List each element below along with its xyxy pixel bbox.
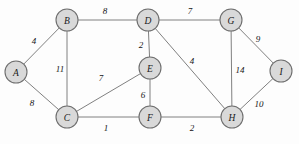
node-label: H <box>228 113 237 123</box>
graph-canvas: 48118712746214910 ABCDEFGHI <box>0 0 299 144</box>
edge-weight-label: 11 <box>56 64 64 74</box>
graph-node-c[interactable]: C <box>56 106 78 128</box>
node-label: G <box>228 16 235 26</box>
edge-weight-label: 8 <box>103 6 108 16</box>
edge-weight-label: 2 <box>139 40 144 50</box>
node-label: E <box>146 64 153 74</box>
node-label: F <box>146 113 153 123</box>
graph-diagram: 48118712746214910 ABCDEFGHI <box>0 0 299 144</box>
graph-node-e[interactable]: E <box>139 57 161 79</box>
graph-node-a[interactable]: A <box>5 61 27 83</box>
graph-node-i[interactable]: I <box>270 60 292 82</box>
node-label: C <box>64 113 71 123</box>
edge-weight-label: 7 <box>99 73 104 83</box>
edge-weight-label: 10 <box>255 99 265 109</box>
node-label: D <box>144 16 152 26</box>
edge-weight-label: 2 <box>190 123 195 133</box>
edge-weight-label: 4 <box>190 56 195 66</box>
graph-node-h[interactable]: H <box>221 106 243 128</box>
edge-weight-label: 8 <box>30 98 35 108</box>
graph-edge <box>24 28 60 64</box>
graph-node-b[interactable]: B <box>56 9 78 31</box>
node-label: B <box>64 16 70 26</box>
graph-edge <box>76 74 140 112</box>
edge-weight-label: 7 <box>188 6 193 16</box>
edge-weight-label: 6 <box>141 90 146 100</box>
edge-weight-label: 9 <box>256 34 261 44</box>
graph-edge <box>231 31 232 106</box>
graph-node-g[interactable]: G <box>220 9 242 31</box>
edge-weight-label: 1 <box>104 123 109 133</box>
graph-node-d[interactable]: D <box>137 9 159 31</box>
node-label: A <box>12 68 19 78</box>
edge-weight-label: 14 <box>236 65 246 75</box>
graph-edge <box>148 31 149 57</box>
nodes-layer: ABCDEFGHI <box>5 9 292 128</box>
graph-node-f[interactable]: F <box>139 106 161 128</box>
graph-edge <box>155 28 225 108</box>
edge-weight-label: 4 <box>32 36 37 46</box>
